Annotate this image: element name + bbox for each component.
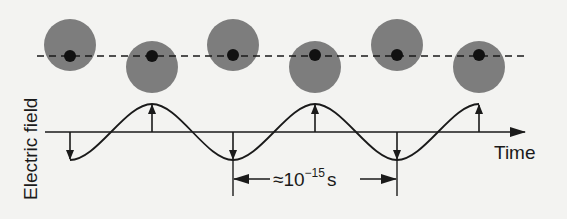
nucleus-3	[227, 49, 239, 61]
nucleus-6	[473, 49, 485, 61]
nucleus-2	[146, 50, 158, 62]
y-axis-label: Electric field	[20, 98, 41, 200]
electron-cloud-5	[371, 19, 423, 71]
period-marker: ≈10−15s	[233, 160, 397, 196]
nucleus-5	[391, 49, 403, 61]
electron-cloud-4	[289, 41, 341, 93]
period-label: ≈10−15s	[273, 166, 336, 190]
period-prefix: ≈10	[273, 169, 305, 190]
electron-cloud-6	[453, 41, 505, 93]
x-axis-label: Time	[494, 142, 536, 163]
oscillating-dipole-diagram: ≈10−15s Electric field Time	[0, 0, 567, 219]
period-unit: s	[327, 169, 337, 190]
nucleus-1	[64, 50, 76, 62]
period-exponent: −15	[305, 166, 326, 180]
electron-cloud-2	[126, 41, 178, 93]
electron-cloud-1	[44, 19, 96, 71]
electron-cloud-3	[207, 19, 259, 71]
nucleus-4	[309, 49, 321, 61]
